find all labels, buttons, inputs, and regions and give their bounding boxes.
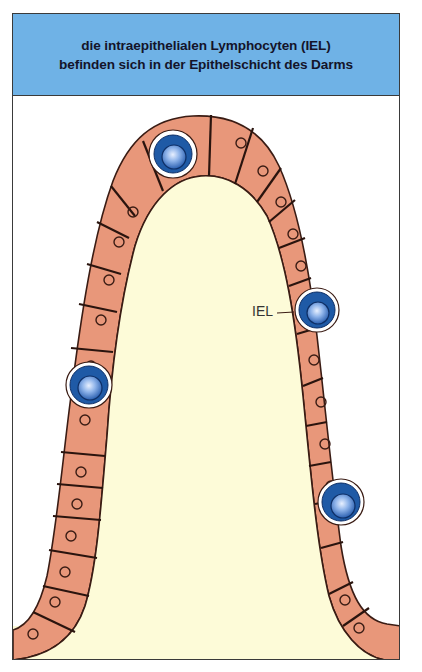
villus-illustration [13, 96, 400, 660]
iel-cell-right-lower [318, 479, 364, 525]
figure-frame: die intraepithelialen Lymphocyten (IEL) … [12, 13, 400, 660]
figure-title: die intraepithelialen Lymphocyten (IEL) … [13, 14, 399, 96]
iel-cell-right-upper [295, 288, 339, 332]
iel-cell-left [66, 362, 112, 408]
iel-cell-top [149, 130, 197, 178]
villus-diagram: IEL [13, 96, 400, 660]
title-line-2: befinden sich in der Epithelschicht des … [59, 55, 353, 74]
iel-label: IEL [252, 303, 273, 319]
title-line-1: die intraepithelialen Lymphocyten (IEL) [81, 36, 330, 55]
